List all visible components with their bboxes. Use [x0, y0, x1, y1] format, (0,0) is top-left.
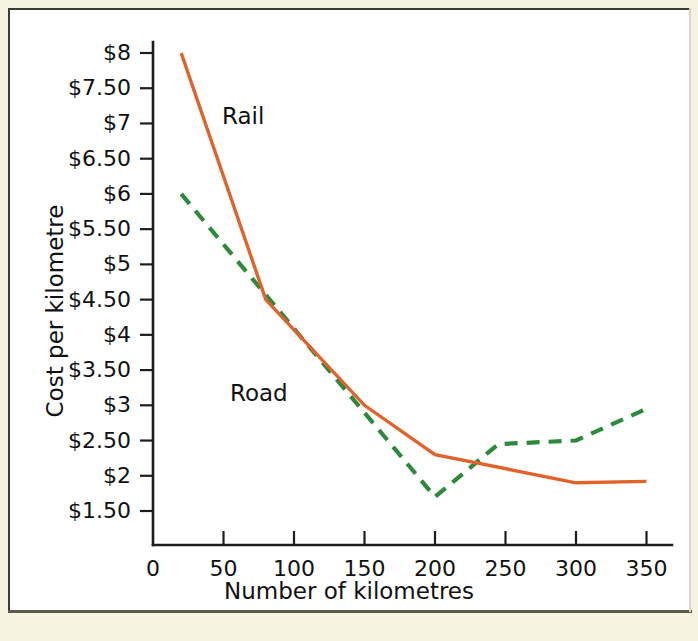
figure-root: $1.50$2$2.50$3$3.50$4$4.50$5$5.50$6$6.50…	[0, 0, 698, 641]
x-axis-tick-label: 100	[273, 558, 315, 580]
y-axis-tick-label: $8	[0, 42, 131, 64]
x-axis-tick-label: 0	[146, 558, 160, 580]
x-axis-tick-label: 300	[555, 558, 597, 580]
y-axis-ticks	[140, 53, 153, 511]
y-axis-tick-label: $2	[0, 465, 131, 487]
series-label-road: Road	[230, 380, 288, 406]
x-axis-tick-label: 350	[626, 558, 668, 580]
x-axis-tick-label: 200	[414, 558, 456, 580]
x-axis-title: Number of kilometres	[0, 578, 698, 604]
x-axis-tick-label: 250	[485, 558, 527, 580]
x-axis-tick-label: 150	[344, 558, 386, 580]
y-axis-tick-label: $7	[0, 112, 131, 134]
x-axis-tick-label: 50	[210, 558, 238, 580]
series-label-rail: Rail	[222, 103, 264, 129]
y-axis-title: Cost per kilometre	[42, 161, 68, 461]
y-axis-tick-label: $1.50	[0, 500, 131, 522]
y-axis-tick-label: $7.50	[0, 77, 131, 99]
x-axis-ticks	[224, 531, 647, 545]
series-line-road	[181, 194, 646, 497]
